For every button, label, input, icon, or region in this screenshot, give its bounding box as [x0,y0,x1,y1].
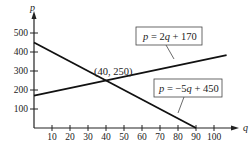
x-tick-label: 100 [207,132,222,142]
y-axis-label: p [29,2,35,13]
y-tick-label: 400 [14,47,29,57]
x-tick-label: 40 [101,132,111,142]
x-tick-label: 80 [173,132,183,142]
supply-demand-chart: 102030405060708090100100200300400500 p q… [0,0,251,149]
line1-equation: p = 2q + 170 [142,31,197,42]
x-tick-label: 60 [137,132,147,142]
line2-equation: p = −5q + 450 [158,83,219,94]
x-tick-label: 30 [83,132,93,142]
intersection-label: (40, 250) [94,66,133,78]
y-tick-label: 100 [14,104,29,114]
x-tick-label: 20 [65,132,75,142]
x-tick-label: 90 [191,132,201,142]
x-axis-label: q [243,122,248,133]
x-tick-label: 10 [47,132,57,142]
x-tick-label: 50 [119,132,129,142]
x-tick-label: 70 [155,132,165,142]
y-tick-label: 300 [14,66,29,76]
y-tick-label: 200 [14,85,29,95]
y-tick-label: 500 [14,28,29,38]
